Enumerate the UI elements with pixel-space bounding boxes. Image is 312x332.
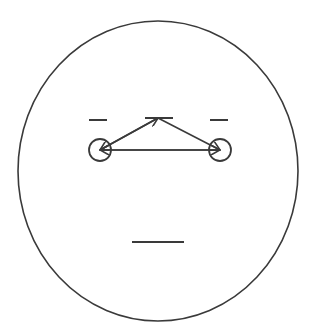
face-diagram xyxy=(0,0,312,332)
arrow-1 xyxy=(100,118,158,150)
arrow-2 xyxy=(158,118,220,150)
face-outline xyxy=(18,21,298,321)
scanpath-arrows xyxy=(100,118,220,150)
